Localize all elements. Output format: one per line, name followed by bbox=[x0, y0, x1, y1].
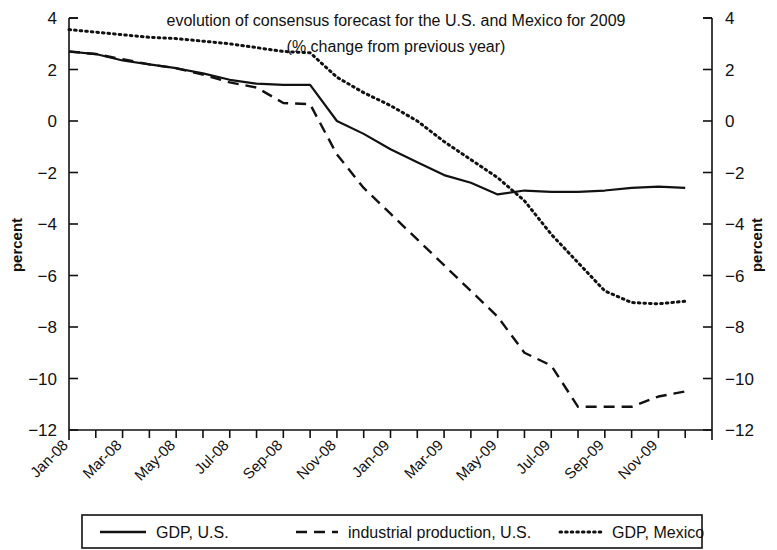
series-line-dotted bbox=[69, 30, 685, 304]
x-tick-label: Sep-08 bbox=[239, 436, 285, 482]
y-tick-label: −8 bbox=[725, 318, 744, 337]
y-axis-ticks-right bbox=[703, 18, 712, 430]
x-tick-label: Nov-08 bbox=[293, 436, 339, 482]
y-tick-label: −6 bbox=[38, 267, 57, 286]
y-tick-label: −10 bbox=[28, 370, 57, 389]
x-tick-label: May-09 bbox=[452, 436, 499, 483]
chart-figure: 420−2−4−6−8−10−12 420−2−4−6−8−10−12 Jan-… bbox=[0, 0, 777, 550]
y-axis-title-right: percent bbox=[748, 218, 765, 272]
legend-label: GDP, U.S. bbox=[156, 524, 229, 541]
plot-frame bbox=[69, 18, 712, 430]
y-tick-label: 4 bbox=[48, 9, 57, 28]
series-line-dashed bbox=[69, 51, 685, 406]
x-tick-label: Jul-09 bbox=[512, 436, 553, 477]
y-tick-label: −12 bbox=[28, 421, 57, 440]
series-line-solid bbox=[69, 51, 685, 194]
x-axis-labels: Jan-08Mar-08May-08Jul-08Sep-08Nov-08Jan-… bbox=[27, 436, 661, 483]
legend-label: GDP, Mexico bbox=[612, 524, 704, 541]
line-chart-canvas: 420−2−4−6−8−10−12 420−2−4−6−8−10−12 Jan-… bbox=[0, 0, 777, 550]
y-tick-label: −6 bbox=[725, 267, 744, 286]
x-tick-label: Jan-08 bbox=[27, 436, 71, 480]
y-axis-labels-left: 420−2−4−6−8−10−12 bbox=[28, 9, 57, 440]
legend-label: industrial production, U.S. bbox=[348, 524, 531, 541]
x-tick-label: Nov-09 bbox=[614, 436, 660, 482]
y-tick-label: −4 bbox=[38, 215, 57, 234]
legend: GDP, U.S.industrial production, U.S.GDP,… bbox=[82, 515, 704, 548]
y-tick-label: 4 bbox=[725, 9, 734, 28]
data-series-group bbox=[69, 30, 685, 407]
x-tick-label: Jul-08 bbox=[191, 436, 232, 477]
chart-subtitle: (% change from previous year) bbox=[287, 38, 506, 55]
y-tick-label: 0 bbox=[48, 112, 57, 131]
y-axis-ticks-left bbox=[69, 18, 78, 430]
y-tick-label: −8 bbox=[38, 318, 57, 337]
y-axis-title-left: percent bbox=[8, 218, 25, 272]
y-tick-label: −12 bbox=[725, 421, 754, 440]
legend-items: GDP, U.S.industrial production, U.S.GDP,… bbox=[100, 524, 704, 541]
x-tick-label: Jan-09 bbox=[348, 436, 392, 480]
x-tick-label: Sep-09 bbox=[561, 436, 607, 482]
y-tick-label: −4 bbox=[725, 215, 744, 234]
y-tick-label: −2 bbox=[725, 164, 744, 183]
x-tick-label: May-08 bbox=[131, 436, 178, 483]
y-tick-label: −2 bbox=[38, 164, 57, 183]
y-tick-label: −10 bbox=[725, 370, 754, 389]
x-tick-label: Mar-08 bbox=[79, 436, 125, 482]
chart-title: evolution of consensus forecast for the … bbox=[167, 12, 626, 29]
y-tick-label: 2 bbox=[725, 61, 734, 80]
x-tick-label: Mar-09 bbox=[401, 436, 447, 482]
y-tick-label: 2 bbox=[48, 61, 57, 80]
y-tick-label: 0 bbox=[725, 112, 734, 131]
